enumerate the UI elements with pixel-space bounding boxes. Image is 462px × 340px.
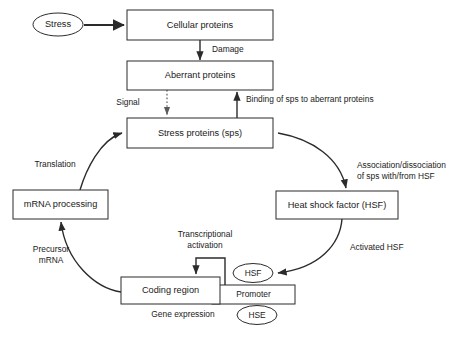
node-mrna-processing: mRNA processing — [13, 190, 108, 219]
edge-sps-to-hsf-association — [278, 133, 346, 188]
node-coding-region-label: Coding region — [142, 285, 199, 295]
node-coding-region: Coding region — [121, 277, 220, 304]
edge-hsf-to-hsf-ellipse-activated — [278, 219, 342, 273]
node-aberrant-proteins: Aberrant proteins — [127, 61, 273, 90]
edge-label-precursor-line2: mRNA — [39, 255, 64, 265]
edge-label-gene-expression: Gene expression — [151, 309, 215, 319]
edge-label-translation: Translation — [34, 159, 75, 169]
node-stress-proteins-label: Stress proteins (sps) — [158, 128, 242, 138]
node-hsf-ellipse-label: HSF — [245, 268, 262, 278]
edge-coding-to-mrna-precursor — [61, 222, 121, 292]
edge-label-transcriptional-line2: activation — [187, 240, 223, 250]
node-hse-ellipse: HSE — [237, 306, 277, 325]
node-aberrant-proteins-label: Aberrant proteins — [165, 70, 236, 80]
edge-label-precursor-line1: Precursor — [33, 244, 70, 254]
edge-label-association-line1: Association/dissociation — [357, 160, 446, 170]
node-heat-shock-factor-label: Heat shock factor (HSF) — [288, 200, 387, 210]
node-cellular-proteins: Cellular proteins — [127, 10, 273, 40]
node-stress-label: Stress — [45, 19, 71, 29]
node-cellular-proteins-label: Cellular proteins — [167, 20, 234, 30]
edge-label-binding: Binding of sps to aberrant proteins — [246, 94, 374, 104]
node-mrna-processing-label: mRNA processing — [24, 199, 98, 209]
stress-protein-pathway-diagram: Stress Cellular proteins Aberrant protei… — [0, 0, 462, 340]
node-hse-ellipse-label: HSE — [248, 310, 266, 320]
edge-mrna-to-sps-translation — [80, 133, 122, 190]
node-stress: Stress — [33, 13, 83, 36]
edge-label-activated-hsf: Activated HSF — [350, 242, 404, 252]
edge-label-signal: Signal — [116, 97, 139, 107]
edge-label-association-line2: of sps with/from HSF — [357, 171, 435, 181]
node-promoter-label: Promoter — [236, 289, 271, 299]
node-promoter: Promoter — [212, 285, 295, 304]
diagram-canvas: Stress Cellular proteins Aberrant protei… — [0, 0, 462, 340]
node-stress-proteins: Stress proteins (sps) — [127, 118, 273, 148]
node-hsf-ellipse: HSF — [233, 264, 273, 283]
node-heat-shock-factor: Heat shock factor (HSF) — [276, 191, 398, 219]
edge-label-damage: Damage — [212, 44, 244, 54]
edge-label-transcriptional-line1: Transcriptional — [178, 229, 233, 239]
